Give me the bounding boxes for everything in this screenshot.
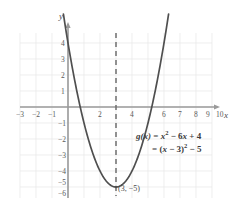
x-tick-label-7: 7 [178,111,182,119]
x-tick-label-8: 8 [194,111,198,119]
y-tick-label-neg1: −1 [58,120,66,128]
y-axis-label: y [59,12,63,21]
y-tick-label-4: 4 [61,40,65,48]
y-tick-label-1: 1 [61,88,65,96]
equation-minus-6: − 6 [171,131,183,141]
y-tick-label-neg6: −6 [58,190,66,198]
x-tick-label-9: 9 [206,111,210,119]
equation-minus-5: − 5 [190,144,202,154]
y-tick-label-neg4: −4 [58,168,66,176]
equation-plus-4: + 4 [189,131,201,141]
parabola-plot [0,0,240,210]
equation-gx: g(x) [136,131,151,141]
y-tick-label-neg3: −3 [58,152,66,160]
vertex-point [115,186,118,189]
x-tick-label-4: 4 [130,111,134,119]
y-tick-label-2: 2 [61,72,65,80]
equation-line-standard: g(x) = x2 − 6x + 4 [136,130,201,143]
x-tick-label-10: 10 [216,111,224,119]
equation-annotation: g(x) = x2 − 6x + 4 = (x − 3)2 − 5 [136,130,201,156]
x-axis-line [20,104,220,109]
equation-line-vertex: = (x − 3)2 − 5 [136,143,201,156]
equation-minus-3: − 3 [169,144,181,154]
x-axis-label: x [224,111,228,120]
x-tick-label-neg2: −2 [32,111,40,119]
vertex-annotation: (3, −5) [118,185,140,193]
x-tick-label-2: 2 [98,111,102,119]
x-tick-label-neg1: −1 [48,111,56,119]
x-tick-label-neg3: −3 [16,111,24,119]
y-tick-label-neg2: −2 [58,136,66,144]
y-tick-label-neg5: −5 [58,179,66,187]
x-tick-label-6: 6 [162,111,166,119]
y-tick-label-3: 3 [61,56,65,64]
graph-figure: y x −3 −2 −1 2 4 6 7 8 9 10 4 3 2 1 −1 −… [0,0,240,210]
y-axis-line [65,22,70,198]
